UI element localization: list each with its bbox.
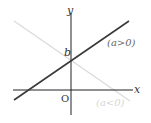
origin-label: O — [61, 93, 69, 104]
negative-slope-label: (a<0) — [96, 97, 125, 108]
x-axis-label: x — [134, 84, 140, 95]
positive-slope-label: (a>0) — [107, 37, 136, 48]
y-axis-label: y — [67, 5, 73, 16]
intercept-label: b — [64, 47, 71, 58]
linear-function-diagram: y x O b (a>0) (a<0) — [0, 0, 151, 123]
graph-svg — [0, 0, 151, 123]
